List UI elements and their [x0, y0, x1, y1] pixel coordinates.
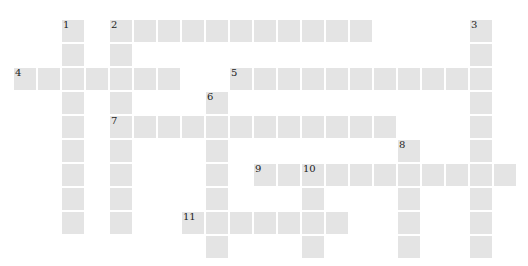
crossword-cell[interactable]	[398, 212, 420, 234]
crossword-cell[interactable]	[158, 116, 180, 138]
crossword-cell[interactable]	[134, 68, 156, 90]
crossword-cell[interactable]	[278, 164, 300, 186]
crossword-cell[interactable]	[278, 212, 300, 234]
clue-number: 10	[303, 163, 316, 175]
crossword-cell[interactable]	[62, 116, 84, 138]
crossword-cell[interactable]: 6	[206, 92, 228, 114]
clue-number: 11	[183, 211, 196, 223]
crossword-cell[interactable]	[62, 140, 84, 162]
crossword-cell[interactable]	[398, 188, 420, 210]
crossword-cell[interactable]: 8	[398, 140, 420, 162]
crossword-cell[interactable]	[206, 236, 228, 258]
crossword-cell[interactable]: 3	[470, 20, 492, 42]
crossword-cell[interactable]	[206, 188, 228, 210]
crossword-cell[interactable]	[470, 116, 492, 138]
crossword-cell[interactable]	[326, 68, 348, 90]
crossword-cell[interactable]	[326, 212, 348, 234]
crossword-cell[interactable]	[254, 68, 276, 90]
crossword-cell[interactable]	[110, 44, 132, 66]
crossword-cell[interactable]	[206, 212, 228, 234]
crossword-cell[interactable]	[254, 116, 276, 138]
crossword-cell[interactable]	[470, 68, 492, 90]
clue-number: 6	[207, 91, 213, 103]
crossword-cell[interactable]	[230, 212, 252, 234]
crossword-cell[interactable]: 7	[110, 116, 132, 138]
crossword-cell[interactable]	[62, 212, 84, 234]
crossword-cell[interactable]: 1	[62, 20, 84, 42]
crossword-cell[interactable]	[470, 212, 492, 234]
crossword-cell[interactable]	[230, 116, 252, 138]
crossword-cell[interactable]	[470, 44, 492, 66]
crossword-cell[interactable]	[302, 68, 324, 90]
crossword-cell[interactable]	[38, 68, 60, 90]
crossword-cell[interactable]	[422, 68, 444, 90]
crossword-cell[interactable]: 2	[110, 20, 132, 42]
clue-number: 7	[111, 115, 117, 127]
clue-number: 9	[255, 163, 261, 175]
crossword-cell[interactable]	[62, 164, 84, 186]
crossword-cell[interactable]	[230, 20, 252, 42]
crossword-cell[interactable]	[374, 68, 396, 90]
crossword-cell[interactable]	[278, 116, 300, 138]
crossword-cell[interactable]	[470, 236, 492, 258]
crossword-cell[interactable]: 5	[230, 68, 252, 90]
crossword-cell[interactable]	[182, 20, 204, 42]
crossword-cell[interactable]	[110, 92, 132, 114]
crossword-cell[interactable]	[374, 164, 396, 186]
crossword-cell[interactable]	[422, 164, 444, 186]
crossword-cell[interactable]: 10	[302, 164, 324, 186]
crossword-cell[interactable]: 11	[182, 212, 204, 234]
crossword-cell[interactable]	[302, 188, 324, 210]
crossword-cell[interactable]	[446, 164, 468, 186]
crossword-cell[interactable]	[206, 164, 228, 186]
crossword-cell[interactable]	[470, 140, 492, 162]
crossword-cell[interactable]	[326, 116, 348, 138]
crossword-cell[interactable]	[398, 68, 420, 90]
crossword-cell[interactable]	[494, 164, 516, 186]
clue-number: 2	[111, 19, 117, 31]
crossword-cell[interactable]	[278, 68, 300, 90]
crossword-cell[interactable]	[302, 236, 324, 258]
crossword-cell[interactable]	[206, 20, 228, 42]
crossword-cell[interactable]	[398, 164, 420, 186]
crossword-cell[interactable]	[206, 116, 228, 138]
crossword-cell[interactable]	[110, 164, 132, 186]
crossword-cell[interactable]	[446, 68, 468, 90]
crossword-cell[interactable]	[86, 68, 108, 90]
crossword-cell[interactable]	[302, 212, 324, 234]
crossword-cell[interactable]	[470, 92, 492, 114]
crossword-cell[interactable]	[110, 212, 132, 234]
crossword-cell[interactable]: 4	[14, 68, 36, 90]
crossword-cell[interactable]	[110, 68, 132, 90]
crossword-cell[interactable]	[350, 116, 372, 138]
crossword-cell[interactable]	[398, 236, 420, 258]
crossword-cell[interactable]	[134, 116, 156, 138]
crossword-cell[interactable]	[254, 20, 276, 42]
crossword-cell[interactable]	[158, 68, 180, 90]
crossword-cell[interactable]	[302, 20, 324, 42]
crossword-cell[interactable]: 9	[254, 164, 276, 186]
crossword-cell[interactable]	[326, 164, 348, 186]
crossword-cell[interactable]	[110, 140, 132, 162]
crossword-cell[interactable]	[254, 212, 276, 234]
crossword-cell[interactable]	[134, 20, 156, 42]
crossword-cell[interactable]	[350, 164, 372, 186]
crossword-cell[interactable]	[374, 116, 396, 138]
crossword-cell[interactable]	[182, 116, 204, 138]
crossword-cell[interactable]	[62, 44, 84, 66]
crossword-cell[interactable]	[470, 164, 492, 186]
crossword-cell[interactable]	[470, 188, 492, 210]
clue-number: 1	[63, 19, 69, 31]
crossword-cell[interactable]	[206, 140, 228, 162]
crossword-cell[interactable]	[110, 188, 132, 210]
crossword-cell[interactable]	[62, 188, 84, 210]
crossword-cell[interactable]	[278, 20, 300, 42]
crossword-cell[interactable]	[62, 68, 84, 90]
crossword-cell[interactable]	[326, 20, 348, 42]
crossword-cell[interactable]	[350, 68, 372, 90]
clue-number: 8	[399, 139, 405, 151]
crossword-cell[interactable]	[302, 116, 324, 138]
crossword-cell[interactable]	[62, 92, 84, 114]
crossword-cell[interactable]	[350, 20, 372, 42]
crossword-cell[interactable]	[158, 20, 180, 42]
